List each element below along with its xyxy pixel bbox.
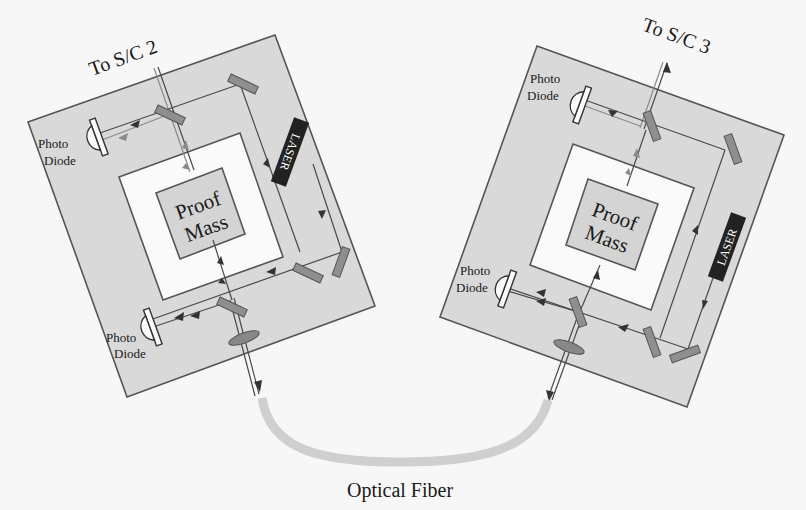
optical-fiber-label: Optical Fiber (347, 479, 453, 502)
right-optical-bench: Proof Mass To S/C 3 (440, 13, 784, 407)
right-pd-top-label-2: Diode (527, 88, 559, 103)
left-pd-bottom-label-2: Diode (114, 346, 146, 361)
left-optical-bench: Proof Mass To S/C 2 (28, 35, 375, 397)
right-pd-top-label-1: Photo (530, 71, 560, 86)
left-pd-top-label-1: Photo (38, 136, 68, 151)
right-link-label: To S/C 3 (640, 13, 714, 58)
right-arrow-out (663, 62, 671, 73)
right-pd-bottom-label-2: Diode (456, 280, 488, 295)
optical-fiber (262, 398, 548, 462)
lisa-optical-bench-diagram: Optical Fiber Proof Mass To S/C 2 (0, 0, 806, 510)
left-pd-bottom-label-1: Photo (106, 330, 136, 345)
left-link-label: To S/C 2 (86, 35, 160, 80)
left-pd-top-label-2: Diode (44, 153, 76, 168)
right-pd-bottom-label-1: Photo (460, 263, 490, 278)
